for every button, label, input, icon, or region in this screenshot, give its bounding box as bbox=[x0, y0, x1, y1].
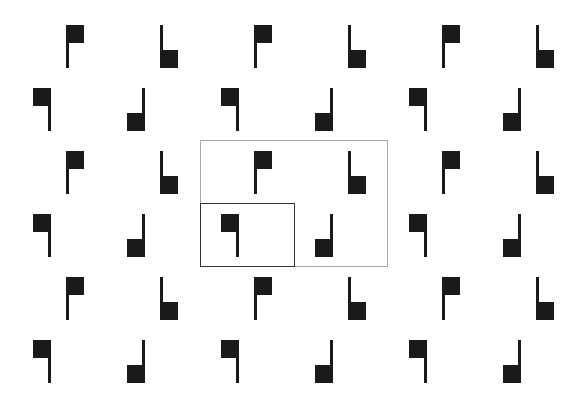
glyph-stem bbox=[518, 214, 521, 257]
glyph-stem bbox=[160, 151, 163, 194]
flag-glyph-icon bbox=[442, 151, 460, 194]
inner-unit-cell-frame bbox=[200, 203, 295, 267]
pattern-canvas bbox=[0, 0, 584, 403]
b-glyph-icon bbox=[160, 277, 178, 320]
flag-glyph-icon bbox=[442, 277, 460, 320]
glyph-stem bbox=[66, 277, 69, 320]
d-glyph-icon bbox=[315, 88, 333, 131]
glyph-stem bbox=[442, 151, 445, 194]
d-glyph-icon bbox=[127, 88, 145, 131]
mirrored-flag-glyph-icon bbox=[33, 88, 51, 131]
flag-glyph-icon bbox=[66, 25, 84, 68]
d-glyph-icon bbox=[503, 340, 521, 383]
glyph-stem bbox=[48, 340, 51, 383]
flag-glyph-icon bbox=[254, 25, 272, 68]
glyph-stem bbox=[348, 25, 351, 68]
b-glyph-icon bbox=[348, 277, 366, 320]
d-glyph-icon bbox=[127, 340, 145, 383]
flag-glyph-icon bbox=[66, 151, 84, 194]
glyph-stem bbox=[536, 277, 539, 320]
mirrored-flag-glyph-icon bbox=[409, 340, 427, 383]
mirrored-flag-glyph-icon bbox=[409, 214, 427, 257]
glyph-stem bbox=[348, 277, 351, 320]
mirrored-flag-glyph-icon bbox=[33, 340, 51, 383]
d-glyph-icon bbox=[315, 340, 333, 383]
glyph-stem bbox=[66, 25, 69, 68]
glyph-stem bbox=[442, 25, 445, 68]
glyph-stem bbox=[160, 277, 163, 320]
glyph-stem bbox=[254, 25, 257, 68]
glyph-stem bbox=[48, 88, 51, 131]
glyph-stem bbox=[142, 340, 145, 383]
glyph-stem bbox=[254, 277, 257, 320]
d-glyph-icon bbox=[127, 214, 145, 257]
mirrored-flag-glyph-icon bbox=[409, 88, 427, 131]
flag-glyph-icon bbox=[254, 277, 272, 320]
glyph-stem bbox=[236, 340, 239, 383]
d-glyph-icon bbox=[503, 88, 521, 131]
glyph-stem bbox=[330, 88, 333, 131]
glyph-stem bbox=[536, 151, 539, 194]
glyph-stem bbox=[424, 340, 427, 383]
b-glyph-icon bbox=[160, 151, 178, 194]
glyph-stem bbox=[442, 277, 445, 320]
glyph-stem bbox=[424, 214, 427, 257]
b-glyph-icon bbox=[536, 151, 554, 194]
glyph-stem bbox=[48, 214, 51, 257]
mirrored-flag-glyph-icon bbox=[221, 340, 239, 383]
glyph-stem bbox=[536, 25, 539, 68]
mirrored-flag-glyph-icon bbox=[221, 88, 239, 131]
glyph-stem bbox=[518, 340, 521, 383]
flag-glyph-icon bbox=[66, 277, 84, 320]
d-glyph-icon bbox=[503, 214, 521, 257]
glyph-stem bbox=[66, 151, 69, 194]
glyph-stem bbox=[236, 88, 239, 131]
glyph-stem bbox=[518, 88, 521, 131]
glyph-stem bbox=[160, 25, 163, 68]
glyph-stem bbox=[330, 340, 333, 383]
glyph-stem bbox=[142, 88, 145, 131]
b-glyph-icon bbox=[160, 25, 178, 68]
b-glyph-icon bbox=[536, 25, 554, 68]
flag-glyph-icon bbox=[442, 25, 460, 68]
glyph-stem bbox=[142, 214, 145, 257]
b-glyph-icon bbox=[348, 25, 366, 68]
mirrored-flag-glyph-icon bbox=[33, 214, 51, 257]
b-glyph-icon bbox=[536, 277, 554, 320]
glyph-stem bbox=[424, 88, 427, 131]
